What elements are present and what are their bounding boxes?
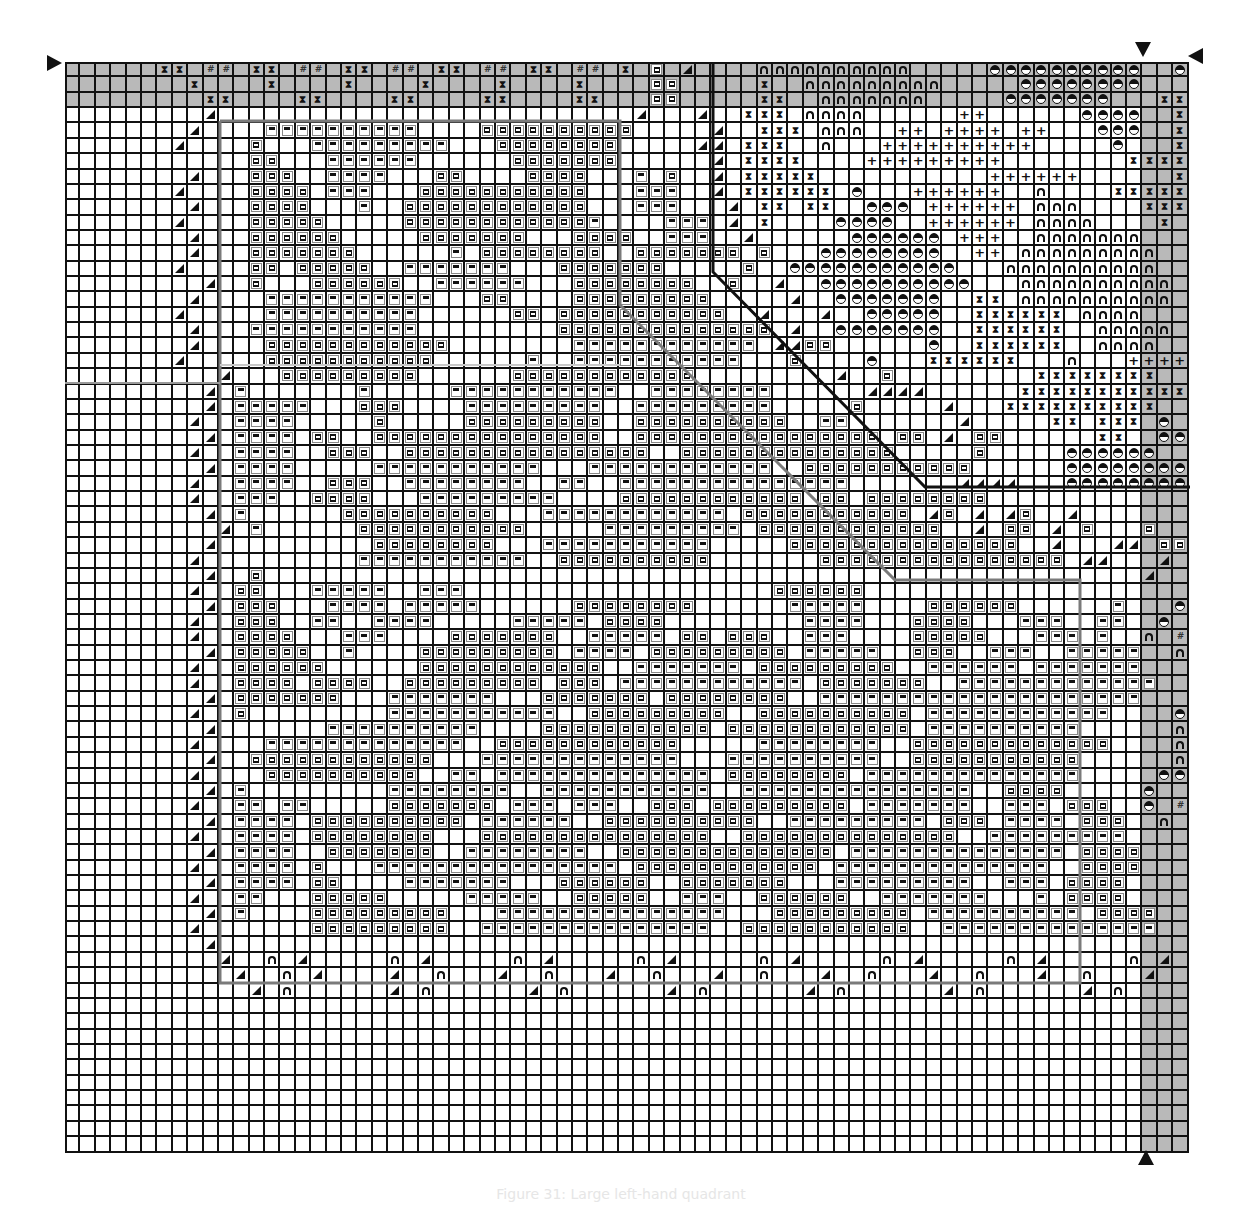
bar-box-icon xyxy=(959,862,970,873)
grid-cell xyxy=(173,446,188,461)
left-arrow-box-icon xyxy=(466,447,477,458)
grid-cell xyxy=(727,385,742,400)
grid-cell xyxy=(388,999,403,1014)
grid-cell xyxy=(373,630,388,645)
grid-cell xyxy=(65,876,80,891)
grid-cell xyxy=(511,799,526,814)
left-arrow-box-icon xyxy=(312,754,323,765)
grid-cell xyxy=(619,999,634,1014)
grid-cell xyxy=(1004,784,1019,799)
grid-cell xyxy=(357,1030,372,1045)
left-arrow-box-icon xyxy=(759,662,770,673)
grid-cell xyxy=(511,246,526,261)
grid-cell xyxy=(1173,984,1188,999)
grid-cell xyxy=(665,170,680,185)
grid-cell xyxy=(804,323,819,338)
grid-cell xyxy=(558,968,573,983)
bar-box-icon xyxy=(528,463,539,474)
grid-cell xyxy=(742,62,757,77)
grid-cell xyxy=(1019,661,1034,676)
left-arrow-box-icon xyxy=(913,616,924,627)
grid-cell xyxy=(1050,446,1065,461)
grid-cell xyxy=(296,123,311,138)
grid-cell xyxy=(835,477,850,492)
grid-cell xyxy=(773,876,788,891)
grid-cell xyxy=(434,630,449,645)
grid-cell xyxy=(296,815,311,830)
grid-cell xyxy=(434,999,449,1014)
grid-cell xyxy=(419,400,434,415)
grid-cell xyxy=(80,600,95,615)
grid-cell xyxy=(835,1060,850,1075)
grid-cell xyxy=(681,968,696,983)
bar-box-icon xyxy=(620,355,631,366)
grid-cell xyxy=(650,646,665,661)
bar-box-icon xyxy=(943,923,954,934)
grid-cell xyxy=(758,630,773,645)
grid-cell xyxy=(404,646,419,661)
grid-cell xyxy=(542,999,557,1014)
grid-cell xyxy=(927,1060,942,1075)
grid-cell xyxy=(881,1014,896,1029)
grid-cell xyxy=(711,984,726,999)
grid-cell xyxy=(173,707,188,722)
grid-cell xyxy=(1127,891,1142,906)
grid-cell xyxy=(250,154,265,169)
left-arrow-box-icon xyxy=(620,739,631,750)
bar-box-icon xyxy=(805,785,816,796)
grid-cell xyxy=(96,216,111,231)
grid-cell xyxy=(1127,216,1142,231)
grid-cell xyxy=(1019,93,1034,108)
grid-cell xyxy=(1050,1091,1065,1106)
grid-cell xyxy=(1065,477,1080,492)
grid-cell xyxy=(80,385,95,400)
grid-cell xyxy=(727,569,742,584)
grid-cell xyxy=(219,538,234,553)
grid-row: ⧗⧗⧗⧗⧗⧗++++ xyxy=(65,354,1189,369)
grid-cell xyxy=(1158,615,1173,630)
left-arrow-box-icon xyxy=(420,524,431,535)
bar-box-icon xyxy=(420,493,431,504)
grid-cell: + xyxy=(988,154,1003,169)
grid-cell xyxy=(465,354,480,369)
arch-icon xyxy=(1068,219,1076,227)
grid-cell xyxy=(419,922,434,937)
bar-box-icon xyxy=(605,862,616,873)
left-arrow-box-icon xyxy=(405,447,416,458)
grid-cell xyxy=(588,584,603,599)
grid-cell xyxy=(727,308,742,323)
bar-box-icon xyxy=(589,862,600,873)
hourglass-icon: ⧗ xyxy=(1144,201,1155,212)
grid-cell xyxy=(1173,845,1188,860)
grid-cell xyxy=(573,477,588,492)
grid-cell xyxy=(111,77,126,92)
grid-cell xyxy=(942,523,957,538)
bar-box-icon xyxy=(266,125,277,136)
grid-cell xyxy=(788,507,803,522)
grid-row xyxy=(65,554,1189,569)
grid-cell xyxy=(204,937,219,952)
left-arrow-box-icon xyxy=(959,616,970,627)
bar-box-icon xyxy=(559,401,570,412)
grid-cell xyxy=(604,1091,619,1106)
hourglass-icon: ⧗ xyxy=(1159,201,1170,212)
grid-cell xyxy=(280,123,295,138)
left-arrow-box-icon xyxy=(482,800,493,811)
grid-cell xyxy=(219,922,234,937)
grid-cell: ⧗ xyxy=(1112,369,1127,384)
grid-cell xyxy=(1035,646,1050,661)
grid-cell xyxy=(958,1137,973,1152)
grid-cell xyxy=(357,968,372,983)
grid-cell xyxy=(604,646,619,661)
grid-cell xyxy=(327,630,342,645)
grid-cell xyxy=(665,477,680,492)
left-arrow-box-icon xyxy=(1005,754,1016,765)
grid-cell xyxy=(327,400,342,415)
grid-cell xyxy=(419,477,434,492)
grid-cell xyxy=(434,815,449,830)
grid-cell xyxy=(111,799,126,814)
left-arrow-box-icon xyxy=(867,708,878,719)
grid-cell xyxy=(219,492,234,507)
grid-cell xyxy=(604,845,619,860)
grid-cell xyxy=(788,77,803,92)
